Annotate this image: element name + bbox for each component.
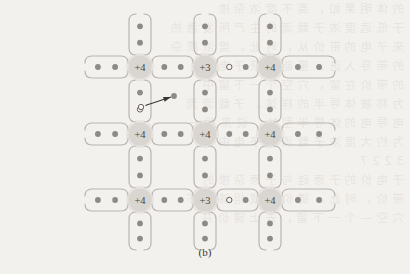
bond-bracket <box>85 123 128 145</box>
electron-dot <box>95 197 101 203</box>
electron-dot <box>202 40 208 46</box>
electron-dot <box>202 23 208 29</box>
lattice-diagram: +4+3+4+4+4+4+4+3+4 <box>0 0 410 274</box>
covalent-bond-horizontal <box>152 123 193 145</box>
atom-core-plus4[interactable]: +4 <box>256 120 284 148</box>
covalent-bond-horizontal <box>152 189 193 211</box>
bond-bracket <box>129 80 151 122</box>
electron-dot <box>95 64 101 70</box>
bond-bracket <box>129 146 151 188</box>
electron-dot <box>295 64 301 70</box>
bond-bracket <box>259 212 281 250</box>
bond-bracket <box>194 80 216 122</box>
bond-bracket <box>129 212 151 250</box>
electron-dot <box>112 131 118 137</box>
atom-core-plus4[interactable]: +4 <box>126 186 154 214</box>
bond-bracket <box>282 189 335 211</box>
covalent-bond-vertical <box>194 80 216 122</box>
bond-bracket <box>194 146 216 188</box>
bond-bracket <box>282 56 335 78</box>
covalent-bond-vertical <box>129 146 151 188</box>
hole-transition-arrow-group <box>138 93 177 110</box>
covalent-bond-vertical <box>259 212 281 250</box>
electron-dot <box>267 221 273 227</box>
covalent-bond-horizontal <box>282 189 335 211</box>
bond-bracket <box>217 56 258 78</box>
hole-marker <box>227 64 232 69</box>
atom-core-plus3[interactable]: +3 <box>191 186 219 214</box>
covalent-bond-horizontal <box>282 123 335 145</box>
core-charge-label: +4 <box>199 129 211 140</box>
covalent-bond-vertical <box>194 146 216 188</box>
electron-dot <box>137 173 143 179</box>
electron-dot <box>267 23 273 29</box>
electron-dot <box>243 64 249 70</box>
covalent-bond-vertical <box>129 80 151 122</box>
electron-dot <box>137 23 143 29</box>
core-charge-label: +4 <box>264 129 276 140</box>
bond-bracket <box>152 123 193 145</box>
covalent-bond-vertical <box>129 212 151 250</box>
electron-dot <box>316 64 322 70</box>
transition-arrow-head <box>163 97 171 102</box>
electron-dot <box>267 156 273 162</box>
atom-core-plus4[interactable]: +4 <box>126 53 154 81</box>
electron-dot <box>202 156 208 162</box>
core-charge-label: +4 <box>264 62 276 73</box>
electron-dot <box>267 90 273 96</box>
covalent-bond-horizontal <box>217 189 258 211</box>
atom-core-plus4[interactable]: +4 <box>256 186 284 214</box>
core-charge-label: +4 <box>134 129 146 140</box>
covalent-bond-horizontal <box>282 56 335 78</box>
electron-dot <box>267 236 273 242</box>
electron-dot <box>137 90 143 96</box>
electron-dot <box>202 90 208 96</box>
bond-bracket <box>194 14 216 55</box>
electron-dot <box>267 40 273 46</box>
electron-dot <box>137 236 143 242</box>
figure-canvas: 的 体 明 果 如 ， 高 不 度 浓 杂 掺于 低 远 度 浓 子 载 流 的… <box>0 0 410 274</box>
electron-dot <box>316 131 322 137</box>
electron-dot <box>137 40 143 46</box>
electron-dot <box>137 156 143 162</box>
figure-caption: (b) <box>0 246 410 258</box>
atom-core-group: +4+3+4+4+4+4+4+3+4 <box>126 53 284 214</box>
covalent-bond-vertical <box>129 14 151 55</box>
electron-dot <box>243 131 249 137</box>
covalent-bond-horizontal <box>217 123 258 145</box>
covalent-bond-horizontal <box>152 56 193 78</box>
core-charge-label: +3 <box>199 62 210 73</box>
bond-bracket <box>282 123 335 145</box>
electron-dot <box>161 197 167 203</box>
atom-core-plus4[interactable]: +4 <box>126 120 154 148</box>
atom-core-plus3[interactable]: +3 <box>191 53 219 81</box>
bond-bracket <box>85 189 128 211</box>
bond-bracket <box>259 80 281 122</box>
bond-bracket <box>152 189 193 211</box>
electron-dot <box>161 131 167 137</box>
electron-dot <box>295 197 301 203</box>
electron-dot <box>161 64 167 70</box>
covalent-bond-vertical <box>194 212 216 250</box>
electron-dot <box>202 236 208 242</box>
electron-dot <box>178 64 184 70</box>
electron-dot <box>316 197 322 203</box>
electron-dot <box>202 173 208 179</box>
covalent-bond-horizontal <box>85 189 128 211</box>
bond-bracket <box>85 56 128 78</box>
covalent-bond-horizontal <box>217 56 258 78</box>
covalent-bond-vertical <box>259 146 281 188</box>
electron-dot <box>171 93 177 99</box>
electron-dot <box>112 197 118 203</box>
electron-dot <box>267 173 273 179</box>
electron-dot <box>95 131 101 137</box>
atom-core-plus4[interactable]: +4 <box>191 120 219 148</box>
bond-bracket <box>152 56 193 78</box>
electron-dot <box>267 107 273 113</box>
core-charge-label: +4 <box>264 195 276 206</box>
hole-marker <box>227 197 232 202</box>
atom-core-plus4[interactable]: +4 <box>256 53 284 81</box>
hole-marker <box>138 104 143 109</box>
bond-bracket <box>217 123 258 145</box>
covalent-bond-vertical <box>259 80 281 122</box>
